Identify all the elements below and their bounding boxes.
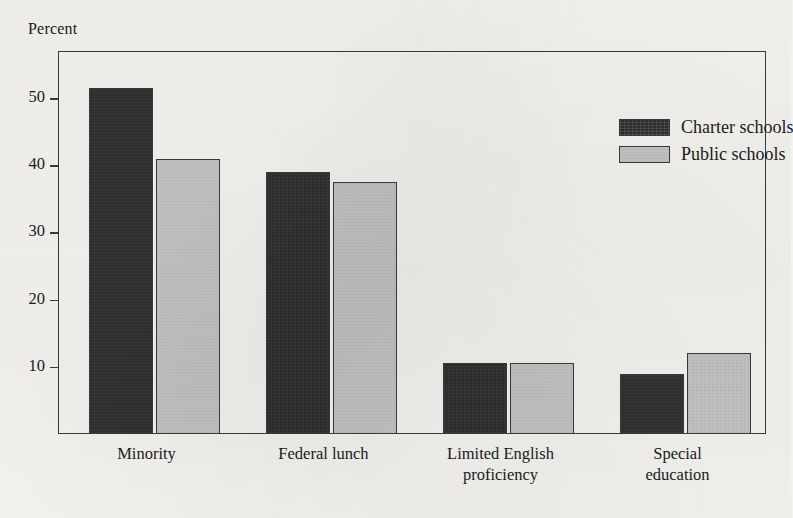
y-tick-label: 40 xyxy=(5,154,45,174)
y-tick-label: 20 xyxy=(5,289,45,309)
bar xyxy=(510,363,574,434)
y-tick-label: 50 xyxy=(5,87,45,107)
bar xyxy=(443,363,507,434)
x-axis-label: Minority xyxy=(58,443,235,464)
y-tick-label: 30 xyxy=(5,221,45,241)
x-axis-label: Limited English proficiency xyxy=(412,443,589,485)
x-axis-label: Special education xyxy=(589,443,766,485)
bar xyxy=(89,88,153,434)
bar xyxy=(620,374,684,434)
bar xyxy=(266,172,330,434)
y-axis-title: Percent xyxy=(28,20,77,38)
bar xyxy=(156,159,220,434)
x-axis-label: Federal lunch xyxy=(235,443,412,464)
bars-layer xyxy=(58,51,766,434)
bar xyxy=(333,182,397,434)
bar xyxy=(687,353,751,434)
y-tick-label: 10 xyxy=(5,356,45,376)
